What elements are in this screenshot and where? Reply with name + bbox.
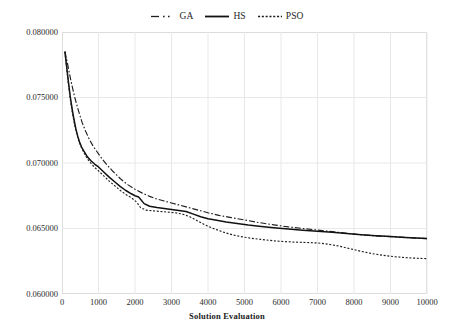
x-tick-label: 2000 [127, 297, 144, 307]
x-tick-label: 3000 [163, 297, 180, 307]
legend-label-hs: HS [233, 11, 245, 21]
y-tick-label: 0.065000 [2, 224, 58, 233]
grid-layer [62, 32, 427, 294]
x-tick-label: 9000 [382, 297, 399, 307]
y-tick-label: 0.080000 [2, 28, 58, 37]
legend-entry-ga: GA [150, 11, 193, 21]
legend-swatch-pso [257, 12, 283, 21]
x-tick-label: 1000 [90, 297, 107, 307]
x-axis-tick-labels: 0100020003000400050006000700080009000100… [0, 297, 454, 311]
chart-legend: GA HS PSO [0, 9, 454, 23]
legend-entry-pso: PSO [257, 11, 304, 21]
x-tick-label: 4000 [200, 297, 217, 307]
plot-area [62, 32, 427, 294]
x-axis-title: Solution Evaluation [0, 311, 454, 321]
series-line-hs [65, 52, 427, 239]
x-tick-label: 5000 [236, 297, 253, 307]
series-layer [65, 52, 427, 259]
y-tick-label: 0.075000 [2, 93, 58, 102]
x-tick-label: 8000 [346, 297, 363, 307]
grid-and-series [62, 32, 427, 294]
x-tick-label: 10000 [416, 297, 437, 307]
legend-entry-hs: HS [204, 11, 245, 21]
series-line-pso [65, 52, 427, 259]
legend-label-ga: GA [179, 11, 193, 21]
x-tick-label: 6000 [273, 297, 290, 307]
legend-swatch-hs [204, 12, 230, 21]
legend-swatch-ga [150, 12, 176, 21]
y-axis-tick-labels: 0.0600000.0650000.0700000.0750000.080000 [0, 0, 58, 331]
series-line-ga [65, 52, 427, 239]
convergence-chart: GA HS PSO 0.0600000.0650000.0700000.0750… [0, 0, 454, 331]
x-tick-label: 7000 [309, 297, 326, 307]
x-tick-label: 0 [60, 297, 64, 307]
y-tick-label: 0.070000 [2, 159, 58, 168]
legend-label-pso: PSO [286, 11, 304, 21]
